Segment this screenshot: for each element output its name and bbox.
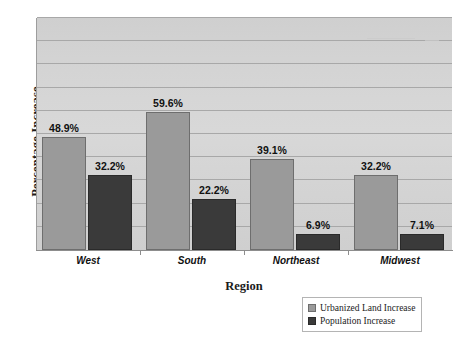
x-axis-tick xyxy=(348,250,349,255)
x-axis-category-labels: WestSouthNortheastMidwest xyxy=(36,255,452,275)
x-axis-tick-label: West xyxy=(36,255,140,266)
bar-chart: Percentage Increase 48.9%32.2%59.6%22.2%… xyxy=(0,0,473,344)
legend-swatch-icon xyxy=(308,317,316,325)
bar-value-label: 59.6% xyxy=(138,97,198,109)
bar-value-label: 48.9% xyxy=(34,122,94,134)
legend-swatch-icon xyxy=(308,304,316,312)
bar-value-label: 7.1% xyxy=(392,219,452,231)
x-axis-title: Region xyxy=(36,279,452,294)
bar xyxy=(88,175,132,250)
scan-artifact xyxy=(425,40,439,41)
x-axis-tick-label: Midwest xyxy=(348,255,452,266)
legend-label: Population Increase xyxy=(320,316,395,326)
bar xyxy=(354,175,398,250)
chart-legend: Urbanized Land Increase Population Incre… xyxy=(302,297,422,332)
bar xyxy=(42,137,86,250)
bar xyxy=(146,112,190,250)
legend-item-urbanized-land-increase[interactable]: Urbanized Land Increase xyxy=(308,301,415,314)
bar-value-label: 6.9% xyxy=(288,219,348,231)
bar xyxy=(296,234,340,250)
bar-value-label: 22.2% xyxy=(184,184,244,196)
legend-label: Urbanized Land Increase xyxy=(320,303,415,313)
x-axis-tick-label: South xyxy=(140,255,244,266)
x-axis-tick xyxy=(140,250,141,255)
bar xyxy=(192,199,236,251)
legend-item-population-increase[interactable]: Population Increase xyxy=(308,314,415,327)
bar-value-label: 32.2% xyxy=(346,160,406,172)
bar-value-label: 32.2% xyxy=(80,160,140,172)
bars-layer: 48.9%32.2%59.6%22.2%39.1%6.9%32.2%7.1% xyxy=(37,18,452,250)
x-axis-tick xyxy=(244,250,245,255)
scan-artifact xyxy=(367,38,415,39)
x-axis-tick-label: Northeast xyxy=(244,255,348,266)
plot-area: 48.9%32.2%59.6%22.2%39.1%6.9%32.2%7.1% xyxy=(36,18,452,250)
bar xyxy=(250,159,294,250)
bar xyxy=(400,234,444,250)
bar-value-label: 39.1% xyxy=(242,144,302,156)
